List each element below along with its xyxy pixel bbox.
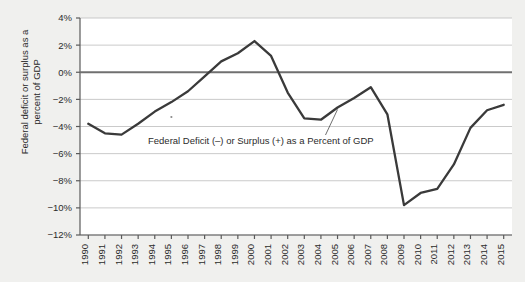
y-tick-label: −6%	[53, 148, 73, 159]
x-tick-label: 1997	[196, 244, 207, 265]
x-tick-label: 2008	[378, 244, 389, 265]
x-tick-label: 2011	[428, 244, 439, 264]
x-tick-label: 2000	[245, 244, 256, 265]
x-tick-label: 2002	[279, 244, 290, 265]
x-tick-label: 2006	[345, 244, 356, 265]
x-tick-label: 1999	[229, 244, 240, 265]
y-axis-title-line2: percent of GDP	[31, 59, 42, 124]
x-tick-label: 2007	[362, 244, 373, 265]
x-tick-label: 2012	[445, 244, 456, 265]
series-annotation-label: Federal Deficit (–) or Surplus (+) as a …	[148, 135, 374, 146]
x-tick-label: 1995	[162, 244, 173, 265]
y-tick-label: 2%	[58, 40, 72, 51]
x-tick-label: 1991	[96, 244, 107, 265]
y-tick-label: −10%	[47, 202, 72, 213]
x-tick-label: 2005	[329, 244, 340, 265]
federal-deficit-surplus-line-chart: 4%2%0%−2%−4%−6%−8%−10%−12% 1990199119921…	[0, 0, 525, 282]
x-tick-label: 2010	[412, 244, 423, 265]
x-tick-label: 2001	[262, 244, 273, 265]
x-tick-label: 1998	[212, 244, 223, 265]
data-point-marker	[170, 116, 172, 118]
x-tick-label: 1990	[79, 244, 90, 265]
y-tick-label: −4%	[53, 121, 73, 132]
y-tick-label: −8%	[53, 175, 73, 186]
x-tick-label: 2009	[395, 244, 406, 265]
x-tick-label: 2004	[312, 244, 323, 265]
chart-figure: 4%2%0%−2%−4%−6%−8%−10%−12% 1990199119921…	[0, 0, 525, 282]
y-axis-title-line1: Federal deficit or surplus as a	[19, 29, 30, 154]
x-tick-label: 2003	[295, 244, 306, 265]
x-tick-label: 1996	[179, 244, 190, 265]
x-tick-label: 2014	[478, 244, 489, 265]
y-tick-label: 0%	[58, 67, 72, 78]
x-tick-label: 2015	[495, 244, 506, 265]
y-tick-label: −12%	[47, 229, 72, 240]
x-tick-label: 1993	[129, 244, 140, 265]
x-tick-label: 2013	[461, 244, 472, 265]
x-tick-label: 1992	[113, 244, 124, 265]
x-tick-label: 1994	[146, 244, 157, 265]
y-tick-label: −2%	[53, 94, 73, 105]
y-tick-label: 4%	[58, 12, 72, 23]
